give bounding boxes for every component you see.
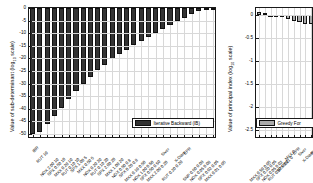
x-axis-tick [170,135,171,138]
y-axis-tick [256,15,259,16]
bar [167,8,172,25]
gridline-horizontal [256,84,312,85]
y-tick-label: -10 [19,30,26,35]
y-axis-tick [256,84,259,85]
x-axis-tick [40,135,41,138]
gridline-horizontal [256,107,312,108]
y-axis-tick [29,33,32,34]
x-axis-tick [33,135,34,138]
bar [52,8,57,116]
x-axis-tick [288,135,289,138]
bar [309,15,313,24]
y-axis-tick [29,109,32,110]
gridline-horizontal [29,84,215,85]
x-axis-tick [69,135,70,138]
gridline-horizontal [29,46,215,47]
x-tick-label: EPR [182,146,192,156]
bar [139,8,144,41]
x-axis-tick [177,135,178,138]
y-axis-tick [256,107,259,108]
x-axis-tick [199,135,200,138]
gridline-horizontal [29,21,215,22]
legend-swatch-iterative-backward [135,120,151,126]
x-axis-tick [213,135,214,138]
x-axis-tick [300,135,301,138]
y-axis-tick [29,134,32,135]
x-axis-tick [83,135,84,138]
bar [204,8,209,10]
bar [117,8,122,54]
x-axis-tick [206,135,207,138]
bar [297,15,301,22]
bar [45,8,50,124]
x-axis-tick [54,135,55,138]
legend-label-greedy-forward: Greedy For [278,121,301,126]
x-axis-tick [134,135,135,138]
x-axis-tick [311,135,312,138]
y-axis-tick [256,130,259,131]
y-tick-label: -30 [19,80,26,85]
y-tick-label: -1 [249,57,253,62]
y-axis-tick [29,84,32,85]
y-axis-tick [29,58,32,59]
panel-principal-index: Value of principal index (log10 scale) 0… [218,0,313,183]
x-axis-tick [259,135,260,138]
x-axis-tick [282,135,283,138]
gridline-horizontal [256,61,312,62]
gridline-horizontal [29,71,215,72]
x-axis-tick [184,135,185,138]
y-axis-tick [29,8,32,9]
y-tick-label: 0 [250,11,253,16]
y-tick-label: -15 [19,42,26,47]
y-axis-title-right: Value of principal index (log10 scale) [227,46,235,132]
gridline-horizontal [29,96,215,97]
y-tick-label: -2 [249,103,253,108]
gridline-horizontal [29,134,215,135]
gridline-horizontal [29,109,215,110]
x-axis-tick [119,135,120,138]
x-axis-tick [76,135,77,138]
bar [102,8,107,65]
bar [211,8,216,10]
y-axis-tick [29,21,32,22]
y-axis-tick-labels-right: 0-0.5-1-1.5-2-2.5 [239,7,253,138]
bar [160,8,165,29]
x-axis-tick [265,135,266,138]
y-axis-tick [29,71,32,72]
y-axis-tick [256,61,259,62]
x-axis-tick [141,135,142,138]
y-axis-title-right-text: Value of principal index (log [227,66,233,132]
x-axis-tick [305,135,306,138]
bar [37,8,42,132]
x-axis-tick [294,135,295,138]
bar [66,8,71,99]
legend-swatch-greedy-forward [259,120,275,126]
bar [95,8,100,70]
figure-container: Value of sub-determinant (log10 scale) 0… [0,0,313,183]
bar [175,8,180,21]
y-axis-tick [29,121,32,122]
x-axis-tick [90,135,91,138]
x-axis-tick [105,135,106,138]
x-axis-tick [156,135,157,138]
y-tick-label: 0 [23,5,26,10]
y-axis-title-right-tail: scale) [227,46,233,62]
x-axis-tick [271,135,272,138]
x-axis-tick [112,135,113,138]
y-tick-label: -0.5 [245,34,253,39]
y-tick-label: -25 [19,67,26,72]
legend-label-iterative-backward: Iterative Backward (IB) [154,121,200,126]
gridline-horizontal [256,130,312,131]
x-tick-label: RUT 10 [35,150,49,164]
bar [124,8,129,50]
y-tick-label: -2.5 [245,126,253,131]
y-axis-tick [29,96,32,97]
bar [182,8,187,18]
panel-sub-determinant: Value of sub-determinant (log10 scale) 0… [0,0,218,183]
bar [88,8,93,77]
x-axis-tick [47,135,48,138]
y-axis-tick-labels-left: 0-5-10-15-20-25-30-35-40-45-50 [12,7,26,138]
x-axis-tick [62,135,63,138]
x-axis-tick [276,135,277,138]
gridline-horizontal [256,38,312,39]
